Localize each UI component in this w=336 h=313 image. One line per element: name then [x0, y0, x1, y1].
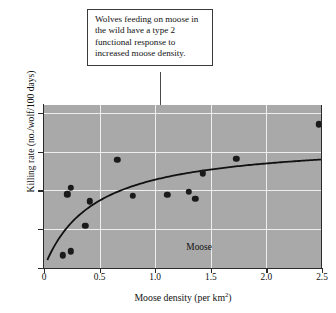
- x-axis-tick-label: 2.0: [246, 272, 286, 282]
- x-axis-title-suffix: ): [228, 292, 231, 303]
- callout-text-box: Wolves feeding on moose in the wild have…: [87, 9, 213, 66]
- y-axis-tick: [38, 152, 43, 153]
- functional-response-curve: [44, 105, 322, 268]
- y-axis-tick: [38, 268, 43, 269]
- plot-area: Moose: [44, 105, 322, 268]
- x-axis-tick-label: 0.5: [80, 272, 120, 282]
- plot-right-border: [321, 105, 322, 269]
- x-axis-tick-label: 1.0: [135, 272, 175, 282]
- series-annotation-label: Moose: [186, 242, 212, 252]
- y-axis-title: Killing rate (no./wolf/100 days): [25, 42, 36, 222]
- y-axis-tick: [38, 113, 43, 114]
- x-axis-title-main: Moose density (per km: [134, 292, 225, 303]
- figure-container: Wolves feeding on moose in the wild have…: [0, 0, 336, 313]
- x-axis-line: [43, 268, 322, 269]
- y-axis-tick: [38, 190, 43, 191]
- y-axis-tick: [38, 229, 43, 230]
- x-axis-tick-label: 0: [24, 272, 64, 282]
- y-axis-line: [43, 104, 44, 269]
- x-axis-tick-label: 1.5: [191, 272, 231, 282]
- x-axis-tick-label: 2.5: [302, 272, 336, 282]
- x-axis-title: Moose density (per km2): [44, 291, 322, 303]
